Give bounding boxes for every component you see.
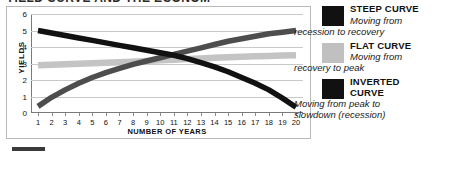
x-tick-label: 13 <box>197 118 205 127</box>
bottom-rule <box>12 147 45 151</box>
legend-label-flat-curve: FLAT CURVE <box>350 41 458 52</box>
x-tick-mark <box>147 113 148 116</box>
x-tick-label: 18 <box>265 118 273 127</box>
x-tick-mark <box>282 113 283 116</box>
x-tick-mark <box>187 113 188 116</box>
series-line <box>38 31 296 107</box>
x-tick-label: 3 <box>63 118 67 127</box>
legend: STEEP CURVE Moving from recession to rec… <box>322 4 458 124</box>
legend-desc-inverted-curve-line2: slowdown (recession) <box>294 109 458 120</box>
legend-desc-steep-curve-line1: Moving from <box>350 15 458 26</box>
x-tick-mark <box>92 113 93 116</box>
x-tick-mark <box>106 113 107 116</box>
figure-title-text: YIELD CURVE AND THE ECONOMY <box>6 0 211 5</box>
y-tick-label: 0 <box>11 109 27 118</box>
x-tick-label: 10 <box>156 118 164 127</box>
x-tick-label: 6 <box>104 118 108 127</box>
x-tick-mark <box>269 113 270 116</box>
x-tick-label: 8 <box>131 118 135 127</box>
legend-label-steep-curve: STEEP CURVE <box>350 4 458 15</box>
series-lines <box>31 14 303 113</box>
x-tick-label: 1 <box>36 118 40 127</box>
yield-curve-figure: YIELD CURVE AND THE ECONOMY YIELDS 01234… <box>0 0 462 177</box>
figure-title-clipped: YIELD CURVE AND THE ECONOMY <box>6 0 211 5</box>
y-tick-label: 5 <box>11 26 27 35</box>
y-tick-label: 3 <box>11 59 27 68</box>
x-tick-label: 15 <box>224 118 232 127</box>
legend-swatch-inverted-curve <box>322 79 344 99</box>
y-tick-label: 2 <box>11 76 27 85</box>
plot-area: 0123456 1234567891011121314151617181920 <box>31 14 303 113</box>
x-tick-mark <box>201 113 202 116</box>
x-tick-label: 7 <box>117 118 121 127</box>
y-tick-label: 1 <box>11 92 27 101</box>
x-tick-label: 2 <box>49 118 53 127</box>
x-tick-mark <box>215 113 216 116</box>
x-tick-mark <box>79 113 80 116</box>
x-tick-label: 4 <box>77 118 81 127</box>
x-tick-label: 12 <box>183 118 191 127</box>
y-tick-label: 4 <box>11 43 27 52</box>
x-tick-label: 17 <box>251 118 259 127</box>
x-tick-mark <box>242 113 243 116</box>
legend-desc-flat-curve-line1: Moving from <box>350 51 458 62</box>
x-tick-label: 16 <box>238 118 246 127</box>
legend-item-flat-curve: FLAT CURVE Moving from recovery to peak <box>322 41 458 74</box>
legend-desc-flat-curve-line2: recovery to peak <box>294 62 458 73</box>
x-tick-mark <box>52 113 53 116</box>
x-tick-mark <box>133 113 134 116</box>
series-line <box>38 31 296 108</box>
legend-label-inverted-curve-2: CURVE <box>350 88 458 99</box>
x-tick-label: 14 <box>210 118 218 127</box>
legend-swatch-steep-curve <box>322 6 344 26</box>
chart-panel: YIELDS 0123456 1234567891011121314151617… <box>6 6 311 139</box>
x-tick-mark <box>119 113 120 116</box>
x-tick-mark <box>38 113 39 116</box>
x-tick-mark <box>228 113 229 116</box>
y-tick-label: 6 <box>11 10 27 19</box>
x-tick-mark <box>160 113 161 116</box>
legend-label-inverted-curve: INVERTED <box>350 77 458 88</box>
legend-desc-steep-curve-line2: recession to recovery <box>294 26 458 37</box>
legend-swatch-flat-curve <box>322 43 344 63</box>
x-tick-label: 19 <box>278 118 286 127</box>
x-axis-label: NUMBER OF YEARS <box>31 127 303 136</box>
x-tick-label: 11 <box>170 118 178 127</box>
x-tick-label: 9 <box>145 118 149 127</box>
x-tick-mark <box>255 113 256 116</box>
x-tick-mark <box>65 113 66 116</box>
legend-item-steep-curve: STEEP CURVE Moving from recession to rec… <box>322 4 458 37</box>
legend-desc-inverted-curve-line1: Moving from peak to <box>294 98 458 109</box>
x-tick-mark <box>174 113 175 116</box>
x-tick-label: 5 <box>90 118 94 127</box>
legend-item-inverted-curve: INVERTED CURVE Moving from peak to slowd… <box>322 77 458 120</box>
